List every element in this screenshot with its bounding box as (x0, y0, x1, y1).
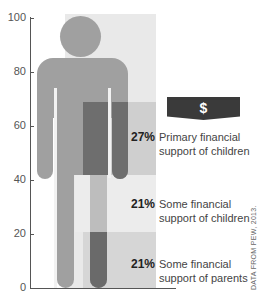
x-axis (30, 288, 176, 289)
label-percent: 27% (131, 130, 155, 144)
y-tick-20: 20 (14, 228, 26, 239)
y-axis (30, 17, 31, 289)
label-primary-support-children: 27% Primary financial support of childre… (131, 130, 155, 144)
tick-mark (30, 18, 34, 19)
arm-gap-left (54, 88, 57, 288)
person-head-icon (60, 16, 101, 57)
source-credit: DATA FROM PEW, 2013. (250, 205, 257, 290)
figure-band-primary-overlay (83, 102, 108, 175)
label-percent: 21% (131, 257, 155, 271)
figure-leg-some-children-overlay (90, 175, 107, 232)
y-tick-60: 60 (14, 120, 26, 131)
label-percent: 21% (131, 197, 155, 211)
person-left-arm-icon (37, 100, 53, 179)
person-left-leg-icon (57, 170, 74, 288)
figure-arm-primary-overlay (112, 102, 128, 179)
money-banner-icon: $ (167, 97, 240, 120)
label-description: Primary financial support of children (159, 130, 250, 158)
y-tick-40: 40 (14, 174, 26, 185)
tick-mark (30, 72, 34, 73)
tick-mark (30, 234, 34, 235)
y-tick-0: 0 (20, 282, 26, 293)
y-tick-80: 80 (14, 66, 26, 77)
label-some-support-parents: 21% Some financial support of parents (131, 257, 155, 271)
y-tick-100: 100 (8, 12, 26, 23)
label-some-support-children: 21% Some financial support of children (131, 197, 155, 211)
figure-leg-parents-overlay (90, 232, 107, 288)
arm-gap-right (108, 88, 111, 178)
label-description: Some financial support of parents (159, 257, 248, 285)
tick-mark (30, 126, 34, 127)
label-description: Some financial support of children (159, 197, 250, 225)
dollar-sign-icon: $ (167, 97, 240, 119)
tick-mark (30, 180, 34, 181)
